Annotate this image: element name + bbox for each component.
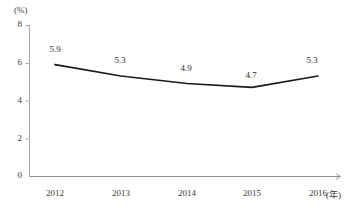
x-tick-label-2015: 2015 bbox=[235, 188, 269, 198]
data-label-2016: 5.3 bbox=[299, 55, 325, 65]
x-tick-label-2016: 2016 bbox=[301, 188, 335, 198]
x-tick-label-2014: 2014 bbox=[170, 188, 204, 198]
y-tick-label-8: 8 bbox=[8, 19, 22, 29]
data-label-2015: 4.7 bbox=[238, 70, 264, 80]
x-tick-label-2012: 2012 bbox=[38, 188, 72, 198]
x-tick-label-2013: 2013 bbox=[104, 188, 138, 198]
chart-plot-area bbox=[0, 0, 350, 211]
y-tick-label-2: 2 bbox=[8, 133, 22, 143]
data-label-2013: 5.3 bbox=[107, 55, 133, 65]
y-tick-label-0: 0 bbox=[8, 170, 22, 180]
data-label-2012: 5.9 bbox=[42, 44, 68, 54]
line-chart: (%) (年) 8 6 4 2 0 2012 2013 2014 2015 20… bbox=[0, 0, 350, 211]
data-label-2014: 4.9 bbox=[173, 63, 199, 73]
y-tick-label-6: 6 bbox=[8, 57, 22, 67]
y-axis-unit-label: (%) bbox=[14, 5, 28, 15]
y-tick-label-4: 4 bbox=[8, 95, 22, 105]
